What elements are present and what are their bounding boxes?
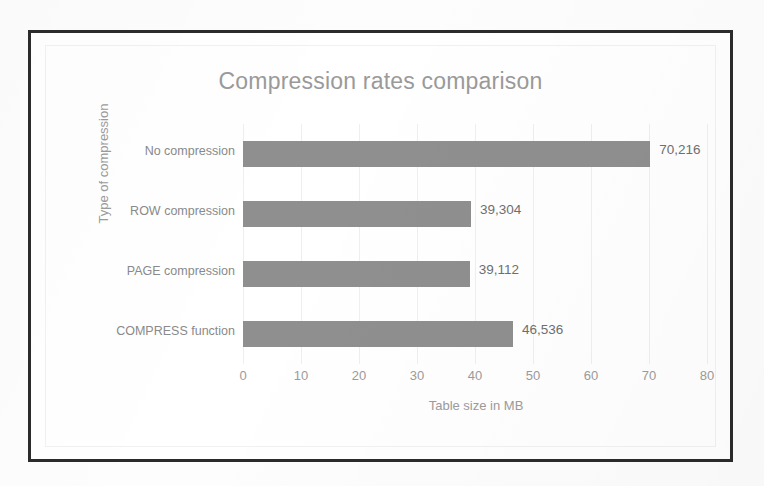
scanned-page: Compression rates comparison Type of com… bbox=[0, 0, 764, 486]
x-tick-label: 30 bbox=[410, 368, 424, 383]
gridline bbox=[707, 124, 708, 364]
x-tick-label: 70 bbox=[642, 368, 656, 383]
category-label: PAGE compression bbox=[127, 264, 235, 278]
bar-row[interactable]: PAGE compression39,112 bbox=[243, 244, 707, 304]
chart-plot-frame: Compression rates comparison Type of com… bbox=[45, 45, 716, 447]
x-tick-label: 10 bbox=[294, 368, 308, 383]
chart-title: Compression rates comparison bbox=[46, 68, 715, 95]
plot-area: No compression70,216ROW compression39,30… bbox=[243, 124, 707, 364]
bar-value-label: 39,112 bbox=[479, 262, 519, 277]
bar-value-label: 70,216 bbox=[659, 142, 700, 157]
bar-value-label: 39,304 bbox=[480, 202, 521, 217]
x-tick-label: 20 bbox=[352, 368, 366, 383]
category-label: ROW compression bbox=[130, 204, 235, 218]
x-tick-label: 0 bbox=[239, 368, 246, 383]
bar-row[interactable]: ROW compression39,304 bbox=[243, 184, 707, 244]
bar[interactable] bbox=[243, 201, 471, 227]
bar-row[interactable]: COMPRESS function46,536 bbox=[243, 304, 707, 364]
bar-value-label: 46,536 bbox=[522, 322, 563, 337]
bar[interactable] bbox=[243, 321, 513, 347]
bar-row[interactable]: No compression70,216 bbox=[243, 124, 707, 184]
x-tick-label: 50 bbox=[526, 368, 540, 383]
category-label: COMPRESS function bbox=[116, 324, 235, 338]
y-axis-title: Type of compression bbox=[96, 59, 111, 269]
x-tick-label: 80 bbox=[700, 368, 714, 383]
bar[interactable] bbox=[243, 261, 470, 287]
x-axis-title: Table size in MB bbox=[246, 398, 706, 413]
bar[interactable] bbox=[243, 141, 650, 167]
x-tick-label: 40 bbox=[468, 368, 482, 383]
x-tick-label: 60 bbox=[584, 368, 598, 383]
chart-outer-frame: Compression rates comparison Type of com… bbox=[28, 30, 733, 462]
x-axis-tick-labels: 01020304050607080 bbox=[243, 368, 707, 390]
category-label: No compression bbox=[145, 144, 235, 158]
